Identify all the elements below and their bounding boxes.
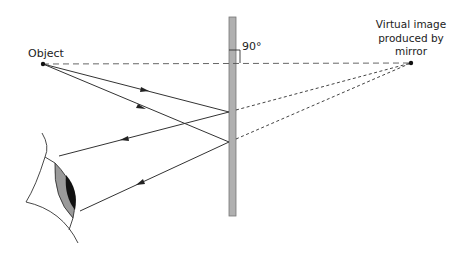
incident-ray-upper: [43, 64, 229, 112]
eye-upper-outline: [42, 133, 47, 157]
object-label: Object: [28, 47, 65, 60]
eyelid-top-edge: [45, 157, 55, 163]
mirror: [229, 17, 236, 216]
eye-upper-lid: [26, 157, 45, 202]
virtual-ray-upper: [236, 63, 411, 110]
virtual-ray-lower: [236, 63, 411, 139]
virtual-image-label-line3: mirror: [395, 45, 428, 57]
arrowhead-icon: [136, 179, 145, 185]
diagram-canvas: 90° Object Virtual image produced by mir…: [0, 0, 466, 259]
object-point: [41, 62, 45, 66]
reflected-ray-lower: [80, 142, 229, 211]
angle-label: 90°: [242, 40, 262, 53]
normal-dashed-line: [43, 63, 411, 64]
virtual-image-label-line1: Virtual image: [376, 18, 446, 30]
reflected-ray-upper: [59, 112, 229, 156]
virtual-image-label-line2: produced by: [378, 32, 444, 44]
eye-icon: [26, 133, 78, 243]
incident-ray-lower: [43, 64, 229, 142]
eyelid-bottom-edge: [69, 218, 73, 230]
virtual-image-point: [409, 61, 413, 65]
